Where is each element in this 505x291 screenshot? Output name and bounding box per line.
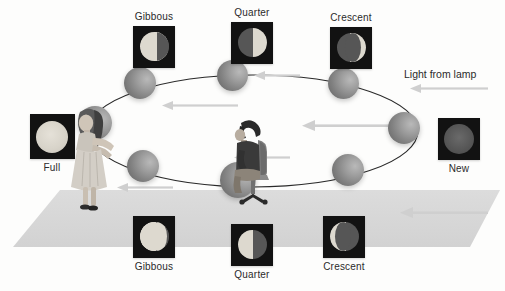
orbit-ball-left (78, 106, 112, 140)
phase-label-crescent-top: Crescent (315, 12, 387, 23)
orbit-ball-upper-right (328, 68, 359, 99)
phase-tile-new (438, 118, 480, 160)
phase-tile-quarter-top (231, 22, 273, 64)
orbit-ball-upper-left (124, 67, 156, 99)
orbit-ball-lower-right (332, 154, 364, 186)
phase-tile-full (30, 114, 75, 159)
light-from-lamp-label: Light from lamp (404, 68, 476, 80)
phase-tile-gibbous-bottom (133, 216, 175, 258)
orbit-ball-top (217, 60, 248, 91)
phase-tile-gibbous-top (133, 26, 175, 68)
arrow-upper-left (162, 101, 238, 110)
phase-label-gibbous-bottom: Gibbous (118, 261, 190, 272)
orbit-ball-bottom (220, 162, 256, 198)
phase-tile-crescent-bottom (323, 216, 365, 258)
orbit-ball-lower-left (127, 150, 159, 182)
orbit-ball-right (388, 112, 420, 144)
arrow-lower-left (117, 183, 173, 192)
phase-label-quarter-top: Quarter (216, 7, 288, 18)
arrow-top (254, 71, 300, 80)
arrow-center (234, 153, 290, 162)
arrow-ground-right (400, 207, 488, 218)
phase-label-quarter-bottom: Quarter (216, 269, 288, 280)
phase-label-new: New (423, 163, 495, 174)
moon-phases-diagram: Gibbous Quarter Crescent New Crescent Qu… (0, 0, 505, 291)
arrow-lamp-label (410, 84, 488, 93)
phase-label-crescent-bottom: Crescent (308, 261, 380, 272)
phase-label-gibbous-top: Gibbous (118, 11, 190, 22)
arrow-mid-right (302, 120, 398, 131)
phase-label-full: Full (16, 162, 88, 173)
phase-tile-crescent-top (330, 27, 372, 69)
phase-tile-quarter-bottom (231, 224, 273, 266)
